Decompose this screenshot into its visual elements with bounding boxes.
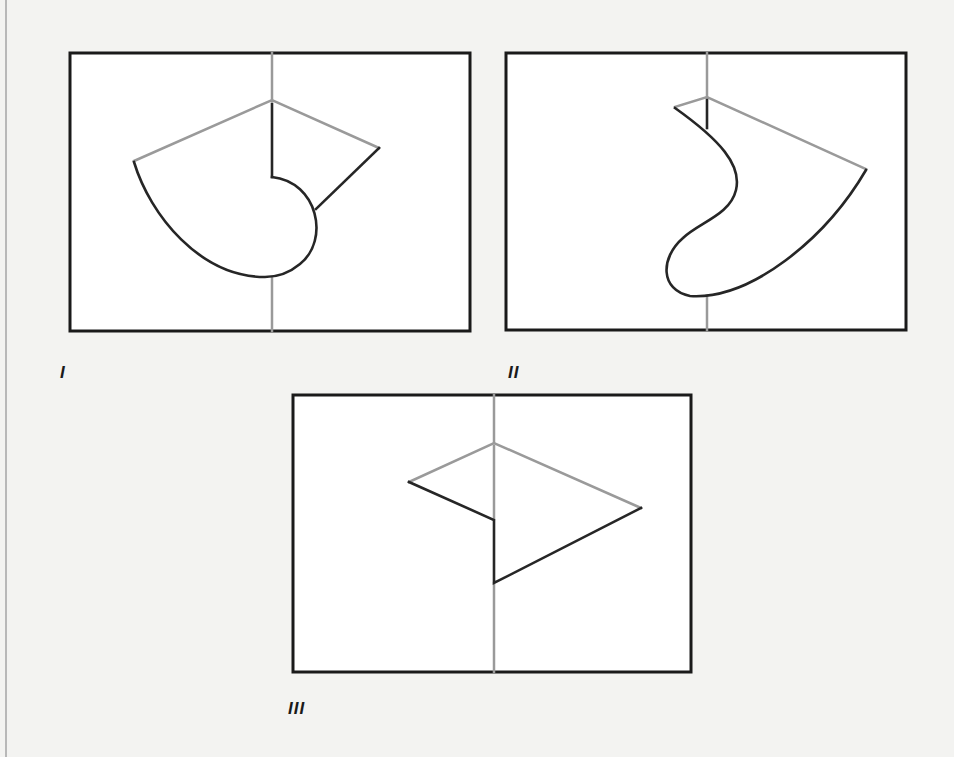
diagram-iii bbox=[289, 391, 695, 676]
diagram-i bbox=[66, 49, 474, 335]
figure-label-iii: III bbox=[288, 700, 305, 717]
panel-frame bbox=[293, 395, 691, 672]
figure-label-i: I bbox=[60, 364, 66, 381]
figure-panel-ii bbox=[502, 49, 910, 334]
panel-frame bbox=[70, 53, 470, 331]
page-margin-rule bbox=[5, 0, 7, 757]
figure-label-ii: II bbox=[508, 364, 519, 381]
figure-panel-i bbox=[66, 49, 474, 335]
figure-panel-iii bbox=[289, 391, 695, 676]
diagram-ii bbox=[502, 49, 910, 334]
